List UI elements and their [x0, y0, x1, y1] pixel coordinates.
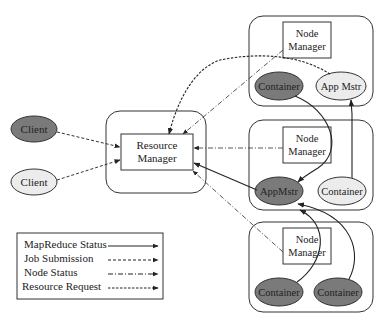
resource-manager: Resource Manager: [106, 111, 206, 193]
client-light: Client: [11, 169, 57, 195]
legend: MapReduce Status Job Submission Node Sta…: [17, 233, 163, 299]
client-label: Client: [21, 123, 48, 135]
app-master-label: AppMstr: [260, 186, 298, 197]
client-dark: Client: [11, 116, 57, 142]
node-manager-line2: Manager: [288, 247, 326, 258]
job-submission-arrows: [57, 132, 120, 180]
node-manager-line2: Manager: [288, 41, 326, 52]
client-label: Client: [21, 176, 48, 188]
container-label: Container: [321, 186, 363, 197]
node-3: Node Manager Container Container: [249, 222, 373, 312]
legend-label: Resource Request: [22, 280, 101, 292]
yarn-architecture-diagram: Client Client Resource Manager Node Mana…: [0, 0, 377, 324]
node-manager-line1: Node: [296, 28, 319, 39]
node-manager-line2: Manager: [288, 146, 326, 157]
container-label: Container: [258, 81, 300, 92]
node-manager-line1: Node: [296, 133, 319, 144]
legend-label: Job Submission: [24, 252, 94, 264]
legend-label: MapReduce Status: [24, 238, 107, 250]
node-2: Node Manager AppMstr Container: [249, 120, 373, 210]
resource-manager-line2: Manager: [137, 152, 176, 164]
node-manager-line1: Node: [296, 234, 319, 245]
node-1: Node Manager Container App Mstr: [249, 16, 373, 106]
container-label: Container: [258, 287, 300, 298]
legend-label: Node Status: [24, 266, 77, 278]
container-label: Container: [317, 287, 359, 298]
resource-manager-line1: Resource: [137, 139, 178, 151]
app-master-label: App Mstr: [321, 81, 362, 92]
